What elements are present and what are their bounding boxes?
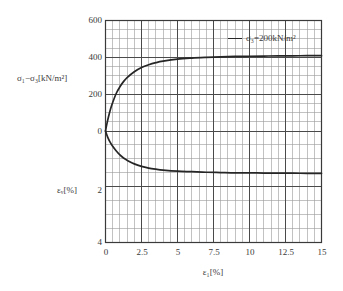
y-tick-label-200: 200 <box>78 90 102 99</box>
chart-legend: σ₃=200kN/m² <box>228 33 296 43</box>
y-tick-label-4: 4 <box>78 238 102 247</box>
x-tick-label-2p5: 2.5 <box>132 248 152 257</box>
x-tick-label-12p5: 12.5 <box>276 248 296 257</box>
legend-label-sigma3: σ₃=200kN/m² <box>246 33 296 43</box>
grid-major-lines <box>106 21 322 243</box>
y-tick-label-0-upper: 0 <box>78 127 102 136</box>
chart-figure: 600 400 200 0 2 4 σ₁−σ₃[kN/m²] εᵥ[%] 0 2… <box>0 0 343 291</box>
x-tick-label-10: 10 <box>240 248 260 257</box>
y-axis-title-deviator-stress-text: σ₁−σ₃[kN/m²] <box>17 73 67 83</box>
x-tick-label-0: 0 <box>96 248 116 257</box>
y-tick-label-400: 400 <box>78 53 102 62</box>
y-axis-title-volumetric-strain-text: εᵥ[%] <box>57 185 77 195</box>
x-tick-label-5: 5 <box>168 248 188 257</box>
y-axis-title-deviator-stress: σ₁−σ₃[kN/m²] <box>17 74 67 83</box>
legend-line-swatch <box>228 38 242 39</box>
x-tick-label-15: 15 <box>312 248 332 257</box>
x-tick-label-7p5: 7.5 <box>204 248 224 257</box>
x-axis-title: ε₁[%] <box>183 268 243 277</box>
y-tick-label-600: 600 <box>78 16 102 25</box>
y-tick-label-2: 2 <box>78 186 102 195</box>
y-axis-title-volumetric-strain: εᵥ[%] <box>57 186 77 195</box>
x-axis-title-text: ε₁[%] <box>203 267 223 277</box>
